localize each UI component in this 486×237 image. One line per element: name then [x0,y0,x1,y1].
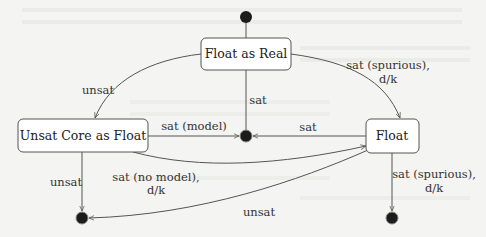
state-label-float-as-real: Float as Real [205,46,288,61]
initial-state-dot [240,11,252,23]
state-unsat-core-as-float: Unsat Core as Float [18,119,148,152]
label-ucf-unsat: unsat [50,175,83,189]
label-far-unsat: unsat [82,83,115,97]
final-state-middle [240,130,252,142]
label-float-unsat: unsat [243,205,276,219]
label-far-spurious-2: d/k [379,72,398,86]
label-float-sat: sat [299,120,317,134]
edge-ucf-to-float [133,146,366,163]
state-label-unsat-core-as-float: Unsat Core as Float [20,128,146,143]
state-label-float: Float [376,128,409,143]
label-ucf-nomodel-1: sat (no model), [112,170,199,184]
label-ucf-model: sat (model) [161,119,227,133]
final-state-right [386,212,398,224]
final-state-left [76,212,88,224]
state-float-as-real: Float as Real [201,38,291,70]
label-float-spurious-1: sat (spurious), [392,167,476,181]
state-diagram: Float as Real Unsat Core as Float Float … [0,0,486,237]
label-float-spurious-2: d/k [425,181,444,195]
label-ucf-nomodel-2: d/k [147,183,166,197]
label-far-sat: sat [249,93,267,107]
state-float: Float [366,119,419,153]
edge-float-to-final-left [89,150,368,218]
label-far-spurious-1: sat (spurious), [346,58,430,72]
